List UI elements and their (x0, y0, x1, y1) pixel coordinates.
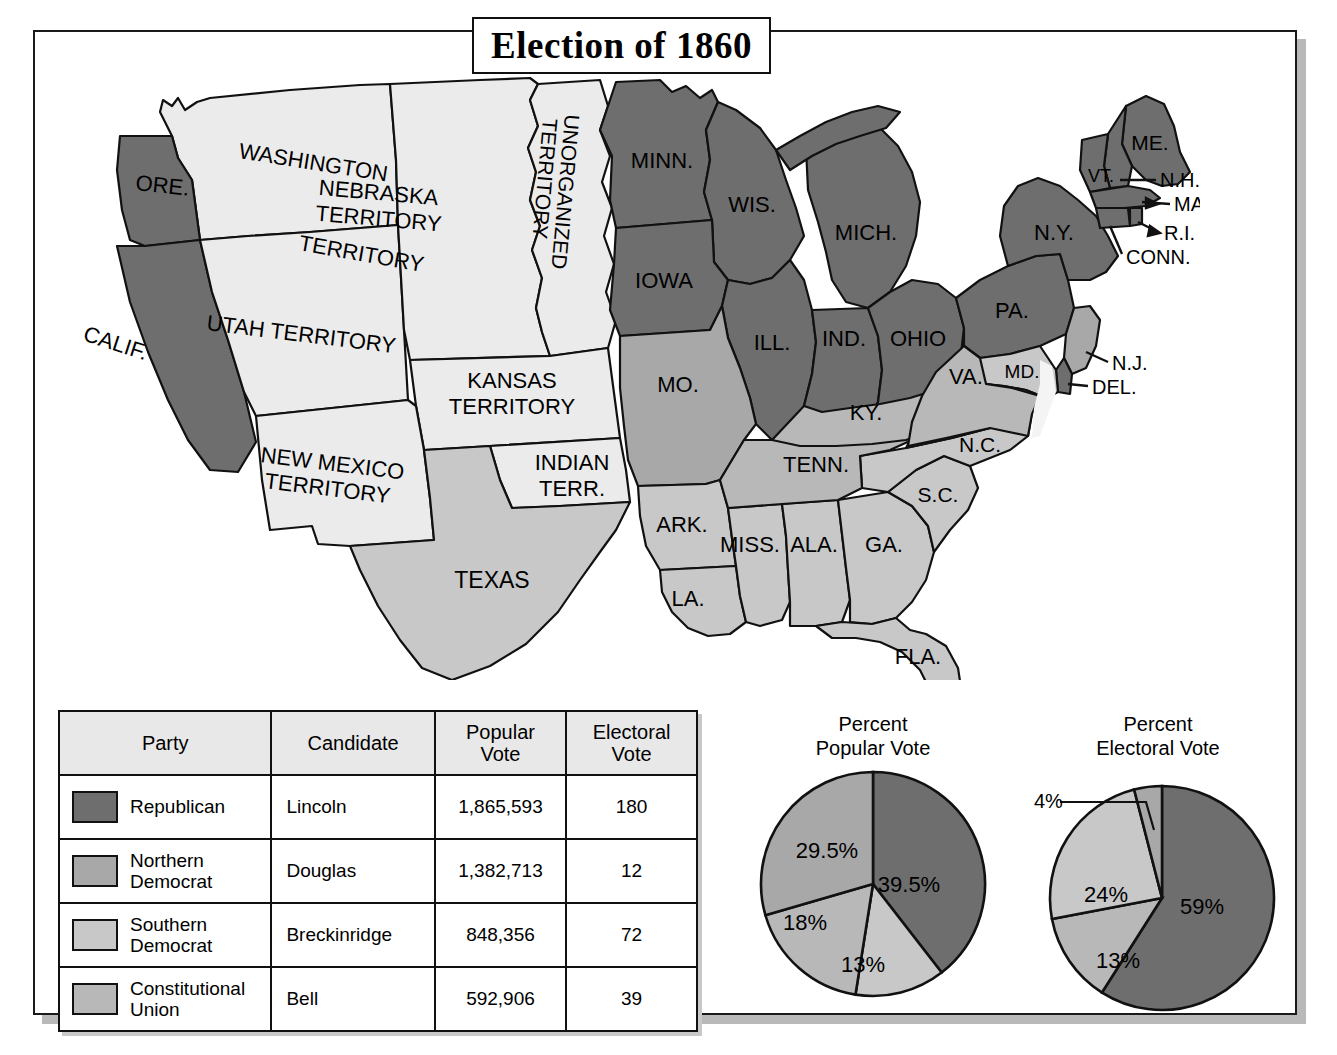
cell-electoral-vote: 12 (566, 839, 697, 903)
electoral-vote-chart: Percent Electoral Vote 59%13%24% 4% (1018, 712, 1298, 1016)
electoral-vote-pie-svg: 59%13%24% 4% (1034, 768, 1282, 1016)
popular-vote-chart-title: Percent Popular Vote (728, 712, 1018, 760)
pie-slice-label: 13% (1096, 948, 1140, 973)
cell-popular-vote: 1,382,713 (435, 839, 566, 903)
party-color-swatch (72, 919, 118, 951)
pie-slice-label: 24% (1084, 882, 1128, 907)
party-label: ConstitutionalUnion (130, 978, 245, 1021)
column-header-electoral-vote: ElectoralVote (566, 711, 697, 775)
electoral-vote-chart-title: Percent Electoral Vote (1018, 712, 1298, 760)
table-row: ConstitutionalUnion Bell 592,906 39 (59, 967, 697, 1031)
state-minnesota (600, 80, 718, 228)
table-row: NorthernDemocrat Douglas 1,382,713 12 (59, 839, 697, 903)
table-row: SouthernDemocrat Breckinridge 848,356 72 (59, 903, 697, 967)
pie-slice-label: 29.5% (796, 838, 858, 863)
party-color-swatch (72, 855, 118, 887)
cell-candidate: Douglas (271, 839, 434, 903)
column-header-party: Party (59, 711, 271, 775)
state-connecticut (1096, 208, 1130, 228)
state-wisconsin (704, 102, 804, 284)
cell-popular-vote: 592,906 (435, 967, 566, 1031)
state-florida (816, 618, 962, 680)
state-iowa (610, 220, 728, 336)
election-map-infographic: Election of 1860 (0, 0, 1337, 1055)
popular-vote-pie-svg: 39.5%13%18%29.5% (757, 768, 989, 1000)
cell-party: Republican (59, 775, 271, 839)
map-label-delaware: DEL. (1092, 376, 1136, 398)
territory-indian (490, 438, 630, 508)
state-maine (1122, 96, 1190, 186)
map-label-rhode-island: R.I. (1164, 222, 1195, 244)
map-svg: WASHINGTON TERRITORY ORE. CALIF. UTAH TE… (60, 40, 1200, 680)
party-label: NorthernDemocrat (130, 850, 212, 893)
column-header-candidate: Candidate (271, 711, 434, 775)
pie-slice-label: 59% (1180, 894, 1224, 919)
pie-slice-label: 18% (783, 910, 827, 935)
callout-label: 4% (1034, 790, 1063, 812)
map-label-new-jersey: N.J. (1112, 352, 1148, 374)
party-color-swatch (72, 791, 118, 823)
territory-new-mexico (256, 400, 434, 546)
pie-slice-label: 13% (841, 952, 885, 977)
party-color-swatch (72, 983, 118, 1015)
state-louisiana (660, 566, 746, 636)
arrow-ri (1148, 226, 1160, 236)
state-pennsylvania (956, 254, 1074, 358)
cell-candidate: Breckinridge (271, 903, 434, 967)
cell-party: NorthernDemocrat (59, 839, 271, 903)
map-label-massachusetts: MASS. (1174, 193, 1200, 215)
cell-popular-vote: 848,356 (435, 903, 566, 967)
us-election-map: WASHINGTON TERRITORY ORE. CALIF. UTAH TE… (60, 40, 1200, 680)
table-header-row: Party Candidate PopularVote ElectoralVot… (59, 711, 697, 775)
map-label-connecticut: CONN. (1126, 246, 1190, 268)
party-label: SouthernDemocrat (130, 914, 212, 957)
cell-electoral-vote: 180 (566, 775, 697, 839)
pie-slice-label: 39.5% (878, 872, 940, 897)
page-title: Election of 1860 (491, 24, 752, 67)
territory-kansas (410, 348, 620, 450)
results-table: Party Candidate PopularVote ElectoralVot… (58, 710, 698, 1032)
cell-candidate: Lincoln (271, 775, 434, 839)
table-row: Republican Lincoln 1,865,593 180 (59, 775, 697, 839)
title-box: Election of 1860 (472, 17, 771, 74)
cell-popular-vote: 1,865,593 (435, 775, 566, 839)
cell-electoral-vote: 72 (566, 903, 697, 967)
state-arkansas (638, 480, 736, 570)
party-label: Republican (130, 796, 225, 817)
column-header-popular-vote: PopularVote (435, 711, 566, 775)
cell-candidate: Bell (271, 967, 434, 1031)
table-body: Republican Lincoln 1,865,593 180 Norther… (59, 775, 697, 1031)
cell-electoral-vote: 39 (566, 967, 697, 1031)
popular-vote-chart: Percent Popular Vote 39.5%13%18%29.5% (728, 712, 1018, 1000)
territory-nebraska (390, 78, 550, 360)
cell-party: ConstitutionalUnion (59, 967, 271, 1031)
cell-party: SouthernDemocrat (59, 903, 271, 967)
